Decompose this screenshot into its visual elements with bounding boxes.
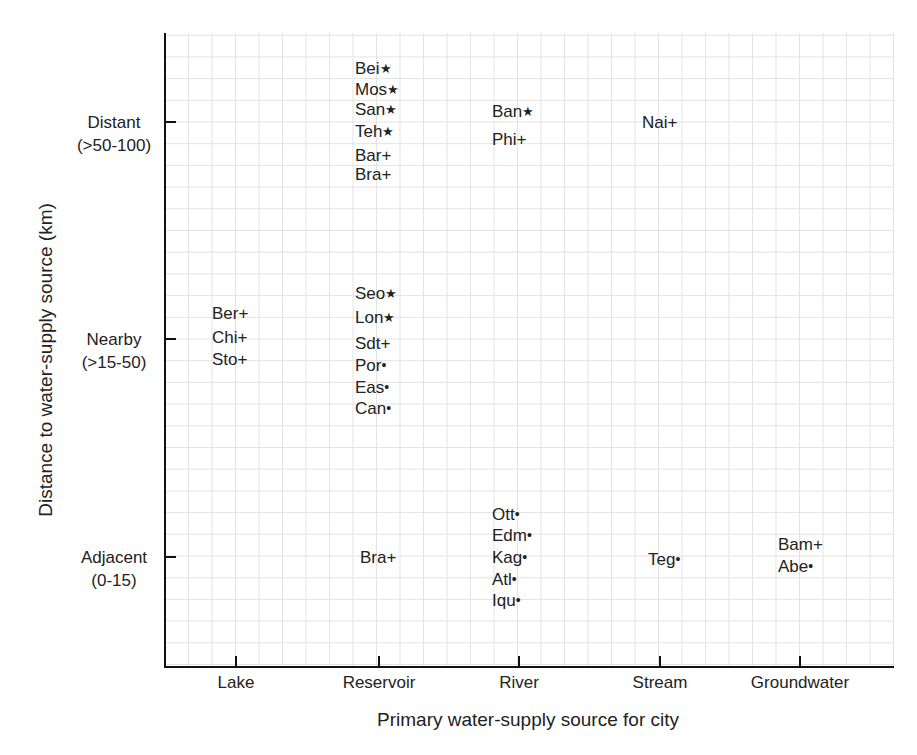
data-point-label: Teg• bbox=[648, 550, 680, 569]
x-tick-label: Reservoir bbox=[343, 673, 416, 692]
y-tick-label: Nearby bbox=[87, 330, 142, 349]
dot-marker-icon: • bbox=[512, 571, 517, 587]
star-marker-icon: ★ bbox=[385, 102, 397, 117]
data-point-label: Bar+ bbox=[355, 146, 391, 165]
data-point-label: Bra+ bbox=[355, 165, 391, 184]
data-point-label: Ban★ bbox=[492, 102, 534, 121]
data-point-label: Iqu• bbox=[492, 591, 521, 610]
data-point-label: Bam+ bbox=[778, 535, 823, 554]
dot-marker-icon: • bbox=[522, 549, 527, 565]
data-point-label: Ott• bbox=[492, 505, 520, 524]
x-axis-title: Primary water-supply source for city bbox=[377, 709, 679, 730]
y-tick-range: (>50-100) bbox=[77, 136, 151, 155]
x-tick-label: River bbox=[499, 673, 539, 692]
water-supply-chart: LakeReservoirRiverStreamGroundwater Dist… bbox=[0, 0, 917, 755]
star-marker-icon: ★ bbox=[383, 310, 395, 325]
y-axis-title: Distance to water-supply source (km) bbox=[35, 203, 56, 517]
data-point-label: Bei★ bbox=[355, 59, 392, 78]
data-point-label: Sdt+ bbox=[355, 334, 391, 353]
data-point-label: Seo★ bbox=[355, 284, 397, 303]
plus-marker-icon: + bbox=[238, 350, 248, 369]
data-point-label: Edm• bbox=[492, 526, 532, 545]
plus-marker-icon: + bbox=[668, 113, 678, 132]
data-point-label: Can• bbox=[355, 399, 391, 418]
star-marker-icon: ★ bbox=[380, 61, 392, 76]
plus-marker-icon: + bbox=[238, 304, 248, 323]
y-tick-range: (0-15) bbox=[91, 571, 136, 590]
dot-marker-icon: • bbox=[675, 551, 680, 567]
x-ticks: LakeReservoirRiverStreamGroundwater bbox=[218, 656, 850, 692]
data-point-label: Kag• bbox=[492, 548, 527, 567]
y-ticks: Distant(>50-100)Nearby(>15-50)Adjacent(0… bbox=[77, 113, 176, 590]
plus-marker-icon: + bbox=[386, 548, 396, 567]
dot-marker-icon: • bbox=[515, 506, 520, 522]
data-point-label: Teh★ bbox=[355, 122, 394, 141]
data-point-label: Eas• bbox=[355, 378, 389, 397]
data-point-label: San★ bbox=[355, 100, 397, 119]
data-point-label: Ber+ bbox=[212, 304, 248, 323]
dot-marker-icon: • bbox=[381, 357, 386, 373]
data-point-label: Por• bbox=[355, 356, 386, 375]
x-tick-label: Lake bbox=[218, 673, 255, 692]
data-point-label: Chi+ bbox=[212, 328, 248, 347]
dot-marker-icon: • bbox=[384, 379, 389, 395]
plus-marker-icon: + bbox=[813, 535, 823, 554]
plus-marker-icon: + bbox=[381, 165, 391, 184]
data-point-label: Mos★ bbox=[355, 80, 399, 99]
data-point-label: Abe• bbox=[778, 557, 813, 576]
data-point-label: Atl• bbox=[492, 570, 517, 589]
y-tick-label: Distant bbox=[88, 113, 141, 132]
data-point-label: Bra+ bbox=[360, 548, 396, 567]
data-point-label: Phi+ bbox=[492, 130, 527, 149]
star-marker-icon: ★ bbox=[387, 82, 399, 97]
y-tick-range: (>15-50) bbox=[82, 353, 147, 372]
plus-marker-icon: + bbox=[381, 146, 391, 165]
y-tick-label: Adjacent bbox=[81, 548, 147, 567]
data-point-label: Nai+ bbox=[642, 113, 678, 132]
plus-marker-icon: + bbox=[238, 328, 248, 347]
plus-marker-icon: + bbox=[381, 334, 391, 353]
dot-marker-icon: • bbox=[516, 592, 521, 608]
x-tick-label: Stream bbox=[633, 673, 688, 692]
star-marker-icon: ★ bbox=[385, 286, 397, 301]
dot-marker-icon: • bbox=[386, 400, 391, 416]
data-point-label: Lon★ bbox=[355, 308, 395, 327]
plus-marker-icon: + bbox=[517, 130, 527, 149]
star-marker-icon: ★ bbox=[522, 104, 534, 119]
data-point-label: Sto+ bbox=[212, 350, 248, 369]
dot-marker-icon: • bbox=[808, 558, 813, 574]
x-tick-label: Groundwater bbox=[751, 673, 850, 692]
star-marker-icon: ★ bbox=[382, 124, 394, 139]
dot-marker-icon: • bbox=[527, 527, 532, 543]
